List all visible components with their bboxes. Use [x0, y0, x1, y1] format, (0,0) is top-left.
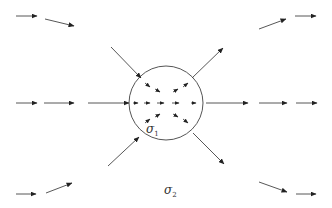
arrow-br-1: [259, 182, 287, 192]
sigma-symbol: σ: [164, 183, 172, 197]
sigma-2-label: σ2: [164, 183, 177, 199]
field-diagram: [0, 0, 332, 208]
inner-field-arrows: [133, 83, 196, 123]
arrow-tr-1: [259, 19, 286, 29]
arrow-bl-2: [46, 183, 72, 193]
sigma-symbol: σ: [146, 122, 154, 136]
sigma-subscript: 2: [172, 191, 176, 199]
arrow-in-bot: [108, 137, 139, 166]
arrow-i13: [183, 119, 188, 123]
sigma-1-label: σ1: [146, 122, 159, 138]
arrow-out-bot: [193, 133, 224, 164]
arrow-out-top: [192, 48, 223, 78]
arrow-i11: [155, 114, 160, 117]
arrow-in-top: [111, 47, 141, 78]
arrow-i3: [173, 89, 178, 92]
arrow-i12: [173, 114, 178, 117]
outer-field-arrows: [16, 16, 317, 194]
arrow-tl-2: [45, 19, 74, 26]
arrow-i4: [183, 83, 188, 87]
arrow-i2: [155, 89, 160, 92]
arrow-i1: [145, 83, 150, 87]
sigma-subscript: 1: [154, 130, 158, 138]
